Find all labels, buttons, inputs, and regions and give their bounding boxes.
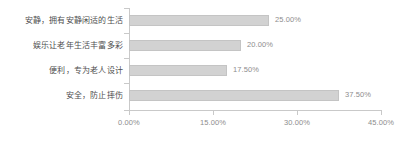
bar-track-1: 20.00% <box>129 40 381 51</box>
x-tick-0 <box>129 110 130 115</box>
x-tick-1 <box>213 110 214 115</box>
x-axis-tick-label-2: 30.00% <box>284 118 310 127</box>
bar-value-label-3: 37.50% <box>345 89 371 101</box>
y-axis-category-labels: 安静，拥有安静闲适的生活 娱乐让老年生活丰富多彩 便利，专为老人设计 安全，防止… <box>0 8 123 110</box>
bar-row-1: 20.00% <box>129 33 381 58</box>
bar-row-2: 17.50% <box>129 58 381 83</box>
bar-row-3: 37.50% <box>129 83 381 108</box>
x-tick-3 <box>381 110 382 115</box>
bar-track-2: 17.50% <box>129 65 381 76</box>
x-axis-tick-label-1: 15.00% <box>200 118 226 127</box>
x-axis-line <box>129 110 381 111</box>
y-axis-label-2: 便利，专为老人设计 <box>49 58 123 83</box>
bar-track-0: 25.00% <box>129 15 381 26</box>
x-axis-tick-label-3: 45.00% <box>368 118 394 127</box>
bar-value-label-2: 17.50% <box>233 64 259 76</box>
bar-track-3: 37.50% <box>129 90 381 101</box>
bar-value-label-1: 20.00% <box>247 39 273 51</box>
y-axis-label-1: 娱乐让老年生活丰富多彩 <box>33 33 123 58</box>
y-axis-label-3: 安全，防止摔伤 <box>66 83 123 108</box>
bar-chart: 安静，拥有安静闲适的生活 娱乐让老年生活丰富多彩 便利，专为老人设计 安全，防止… <box>0 0 416 145</box>
plot-area: 25.00% 20.00% 17.50% 37.50% <box>129 8 381 110</box>
y-axis-label-0: 安静，拥有安静闲适的生活 <box>25 8 123 33</box>
bar-0[interactable] <box>129 15 269 26</box>
x-tick-2 <box>297 110 298 115</box>
bar-3[interactable] <box>129 90 339 101</box>
x-axis-tick-label-0: 0.00% <box>118 118 140 127</box>
bar-row-0: 25.00% <box>129 8 381 33</box>
bar-2[interactable] <box>129 65 227 76</box>
bar-1[interactable] <box>129 40 241 51</box>
bar-value-label-0: 25.00% <box>275 14 301 26</box>
